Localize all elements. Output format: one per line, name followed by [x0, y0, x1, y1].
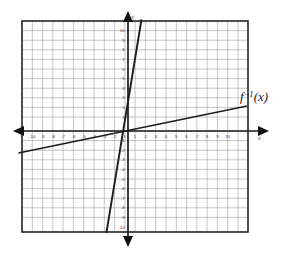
x-tick-label: -10	[29, 134, 36, 139]
x-tick-label: -7	[61, 134, 65, 139]
x-tick-label: -5	[82, 134, 86, 139]
x-tick-label: -9	[41, 134, 45, 139]
x-axis-name-label: x	[257, 135, 261, 141]
y-tick-label: -6	[121, 186, 125, 191]
y-tick-label: -5	[121, 177, 125, 182]
y-axis-down-arrow-icon	[123, 236, 133, 247]
y-tick-label: -8	[121, 205, 125, 210]
coordinate-graph-figure: -10 -9 -8 -7 -6 -5 -4 -3 -2 -1 1 2 3 4 5…	[0, 0, 288, 254]
y-tick-label: -10	[118, 225, 125, 230]
y-tick-label: -4	[121, 167, 125, 172]
x-tick-label: -8	[51, 134, 55, 139]
y-tick-label: 10	[120, 28, 125, 33]
y-tick-label: -9	[121, 215, 125, 220]
x-axis-left-arrow-icon	[13, 126, 24, 136]
y-tick-label: -2	[121, 148, 125, 153]
y-axis-name-label: y	[131, 14, 135, 20]
y-tick-label: -7	[121, 196, 125, 201]
f-inverse-label-arg: (x)	[254, 89, 268, 104]
x-tick-label: -2	[113, 134, 117, 139]
y-tick-label: -3	[121, 157, 125, 162]
graph-canvas: -10 -9 -8 -7 -6 -5 -4 -3 -2 -1 1 2 3 4 5…	[0, 0, 288, 254]
grid-group	[22, 21, 248, 232]
x-tick-label: -6	[71, 134, 75, 139]
x-tick-label: 10	[225, 134, 230, 139]
f-inverse-label-exponent: −1	[244, 89, 254, 99]
